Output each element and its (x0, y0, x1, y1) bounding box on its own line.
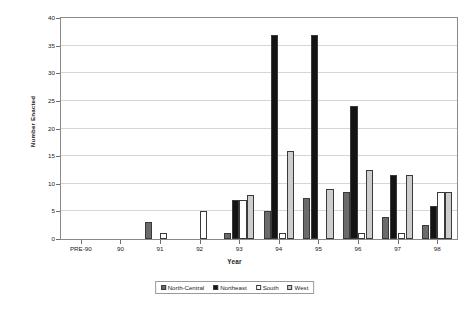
x-tick-mark (398, 240, 399, 244)
y-tick-mark (56, 101, 60, 102)
bar-group (382, 18, 413, 239)
y-tick-label: 20 (31, 126, 55, 132)
x-tick-mark (318, 240, 319, 244)
legend-label: Northeast (220, 284, 246, 291)
legend-swatch-icon (288, 285, 293, 290)
bar (247, 195, 254, 239)
bars-layer (61, 18, 457, 239)
legend-item: Northeast (213, 284, 246, 291)
legend-label: West (295, 284, 309, 291)
bar (287, 151, 294, 239)
legend-item: West (288, 284, 309, 291)
bar-group (184, 18, 215, 239)
bar (343, 192, 350, 239)
legend-swatch-icon (256, 285, 261, 290)
x-tick-label: 97 (376, 245, 420, 252)
bar (303, 198, 310, 239)
bar (358, 233, 365, 239)
x-axis-title: Year (0, 258, 469, 265)
bar (232, 200, 239, 239)
bar (145, 222, 152, 239)
bar (382, 217, 389, 239)
bar-chart: Number Enacted 0510152025303540 PRE-9090… (0, 0, 469, 310)
y-tick-label: 0 (31, 236, 55, 242)
bar-group (66, 18, 97, 239)
y-tick-label: 15 (31, 153, 55, 159)
legend-swatch-icon (161, 285, 166, 290)
y-axis-title: Number Enacted (29, 62, 36, 182)
bar (279, 233, 286, 239)
x-tick-label: 93 (217, 245, 261, 252)
x-tick-label: 90 (98, 245, 142, 252)
y-tick-mark (56, 239, 60, 240)
bar (224, 233, 231, 239)
bar (390, 175, 397, 239)
x-tick-mark (279, 240, 280, 244)
bar-group (343, 18, 374, 239)
x-tick-mark (239, 240, 240, 244)
x-tick-mark (160, 240, 161, 244)
bar-group (422, 18, 453, 239)
bar (437, 192, 444, 239)
x-tick-label: PRE-90 (59, 245, 103, 252)
bar (350, 106, 357, 239)
x-tick-mark (120, 240, 121, 244)
bar (239, 200, 246, 239)
y-tick-mark (56, 129, 60, 130)
y-tick-mark (56, 18, 60, 19)
bar (398, 233, 405, 239)
y-tick-label: 10 (31, 181, 55, 187)
y-tick-mark (56, 211, 60, 212)
bar (264, 211, 271, 239)
bar (430, 206, 437, 239)
y-tick-label: 30 (31, 70, 55, 76)
y-tick-mark (56, 46, 60, 47)
bar-group (303, 18, 334, 239)
bar (311, 35, 318, 239)
y-tick-label: 35 (31, 43, 55, 49)
legend-swatch-icon (213, 285, 218, 290)
legend-label: South (263, 284, 279, 291)
x-tick-mark (437, 240, 438, 244)
x-tick-mark (358, 240, 359, 244)
bar (445, 192, 452, 239)
y-tick-mark (56, 156, 60, 157)
x-tick-label: 95 (296, 245, 340, 252)
y-tick-label: 25 (31, 98, 55, 104)
x-tick-label: 92 (178, 245, 222, 252)
bar (326, 189, 333, 239)
bar-group (105, 18, 136, 239)
legend-item: South (256, 284, 279, 291)
bar (200, 211, 207, 239)
bar (366, 170, 373, 239)
bar-group (224, 18, 255, 239)
x-tick-label: 96 (336, 245, 380, 252)
x-tick-label: 91 (138, 245, 182, 252)
y-tick-mark (56, 184, 60, 185)
bar (160, 233, 167, 239)
bar (271, 35, 278, 239)
y-tick-label: 5 (31, 208, 55, 214)
x-tick-mark (200, 240, 201, 244)
x-tick-label: 98 (415, 245, 459, 252)
legend-label: North-Central (168, 284, 205, 291)
bar-group (145, 18, 176, 239)
chart-legend: North-CentralNortheastSouthWest (155, 281, 315, 294)
bar (422, 225, 429, 239)
x-tick-mark (81, 240, 82, 244)
y-tick-label: 40 (31, 15, 55, 21)
bar-group (264, 18, 295, 239)
x-tick-label: 94 (257, 245, 301, 252)
bar (406, 175, 413, 239)
legend-item: North-Central (161, 284, 205, 291)
y-tick-mark (56, 73, 60, 74)
